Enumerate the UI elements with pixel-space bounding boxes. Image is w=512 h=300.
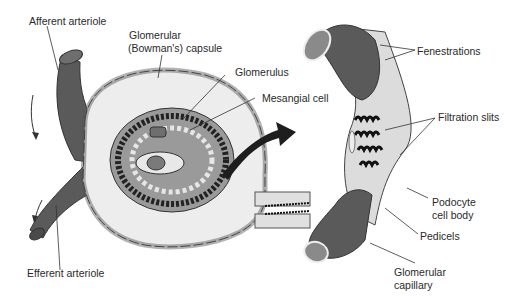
podocyte-capillary (298, 25, 411, 266)
label-capsule-line1: Glomerular (129, 29, 181, 41)
label-fenestrations: Fenestrations (417, 45, 481, 57)
mesangial-cell (150, 127, 166, 137)
flow-arrow-in (31, 95, 36, 138)
label-capillary-line2: capillary (394, 279, 433, 291)
label-filtration-slits: Filtration slits (438, 111, 499, 123)
label-glomerulus: Glomerulus (235, 66, 289, 78)
label-capsule-line2: (Bowman's) capsule (128, 42, 222, 54)
label-podocyte-line1: Podocyte (432, 196, 476, 208)
label-afferent-arteriole: Afferent arteriole (29, 15, 106, 27)
label-mesangial-cell: Mesangial cell (262, 92, 329, 104)
label-capillary-line1: Glomerular (394, 266, 446, 278)
glomerulus (110, 108, 234, 212)
label-podocyte-line2: cell body (432, 209, 473, 221)
label-pedicels: Pedicels (420, 230, 460, 242)
label-efferent-arteriole: Efferent arteriole (27, 267, 104, 279)
